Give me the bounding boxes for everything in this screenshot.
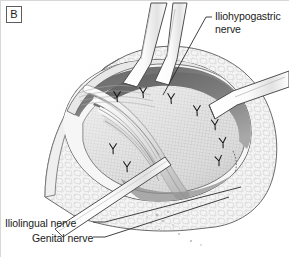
label-genital-nerve: Genital nerve (32, 232, 93, 245)
panel-label-b: B (6, 6, 22, 23)
label-iliohypogastric-nerve: Iliohypogastric nerve (215, 10, 281, 36)
label-ilioinguinal-nerve: Iliolingual nerve (5, 217, 76, 230)
figure-panel: B Iliohypogastric nerve Iliolingual nerv… (0, 0, 289, 257)
